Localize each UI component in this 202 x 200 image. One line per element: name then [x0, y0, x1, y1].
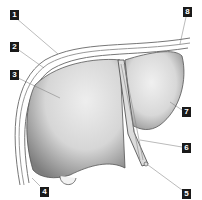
label-3: 3 [10, 70, 19, 80]
gallbladder [60, 176, 76, 185]
round-ligament-end [144, 162, 148, 166]
label-2: 2 [10, 42, 19, 52]
left-lobe [125, 52, 184, 130]
label-8: 8 [183, 7, 192, 17]
right-lobe [27, 59, 125, 177]
label-6: 6 [182, 143, 191, 153]
label-7: 7 [182, 107, 191, 117]
label-5: 5 [182, 189, 191, 199]
liver-diagram [0, 0, 202, 200]
label-1: 1 [10, 10, 19, 20]
label-4: 4 [40, 187, 49, 197]
